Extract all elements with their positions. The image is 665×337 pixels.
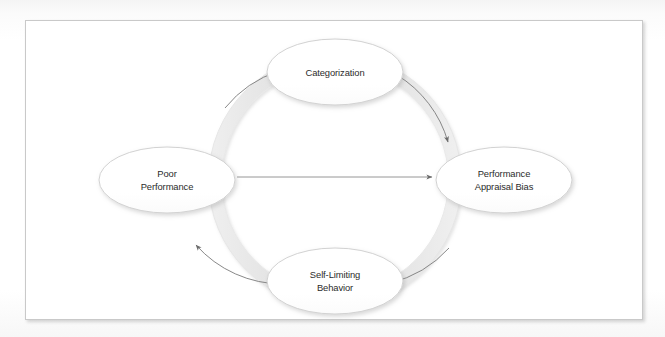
node-poor-performance-line2: Performance — [141, 181, 194, 192]
node-poor-performance[interactable]: Poor Performance — [99, 147, 235, 213]
node-poor-performance-shape[interactable] — [99, 147, 235, 213]
node-self-limiting-behavior-shape[interactable] — [267, 248, 403, 314]
node-performance-appraisal-bias[interactable]: Performance Appraisal Bias — [436, 147, 572, 213]
node-self-limiting-behavior-line2: Behavior — [317, 282, 353, 293]
node-self-limiting-behavior-line1: Self-Limiting — [310, 269, 360, 280]
node-categorization[interactable]: Categorization — [267, 39, 403, 105]
cycle-diagram: Categorization Performance Appraisal Bia… — [0, 0, 665, 337]
node-self-limiting-behavior[interactable]: Self-Limiting Behavior — [267, 248, 403, 314]
node-poor-performance-line1: Poor — [157, 168, 176, 179]
node-performance-appraisal-bias-line1: Performance — [478, 168, 531, 179]
diagram-stage: Categorization Performance Appraisal Bia… — [0, 0, 665, 337]
node-performance-appraisal-bias-line2: Appraisal Bias — [475, 181, 534, 192]
node-categorization-line1: Categorization — [305, 67, 364, 78]
node-performance-appraisal-bias-shape[interactable] — [436, 147, 572, 213]
